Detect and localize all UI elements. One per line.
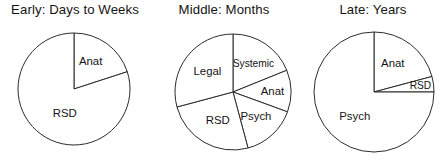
- panel-late: Late: Years AnatRSDPsych: [300, 0, 446, 163]
- pie-slice-label-rsd: RSD: [53, 107, 77, 119]
- pie-slice-label-legal: Legal: [193, 65, 221, 77]
- pie-middle: SystemicAnatPsychRSDLegal: [150, 0, 298, 163]
- pie-slice-label-anat: Anat: [381, 57, 405, 69]
- pie-slice-label-rsd: RSD: [410, 80, 432, 91]
- pie-slice-label-systemic: Systemic: [233, 58, 274, 69]
- pie-early: AnatRSD: [2, 0, 148, 163]
- panel-early: Early: Days to Weeks AnatRSD: [2, 0, 148, 163]
- panel-middle: Middle: Months SystemicAnatPsychRSDLegal: [150, 0, 298, 163]
- pie-chart-figure: Early: Days to Weeks AnatRSD Middle: Mon…: [0, 0, 446, 163]
- pie-slice-label-anat: Anat: [261, 85, 285, 97]
- pie-slice-label-anat: Anat: [79, 55, 103, 67]
- pie-late: AnatRSDPsych: [300, 0, 446, 163]
- pie-slice-label-psych: Psych: [339, 110, 370, 122]
- pie-slice-label-rsd: RSD: [206, 114, 230, 126]
- pie-slice-label-psych: Psych: [240, 110, 271, 122]
